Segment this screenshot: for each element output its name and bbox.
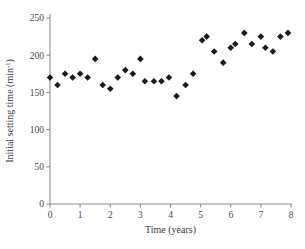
y-axis-title-suffix: ) — [4, 59, 16, 62]
data-point — [270, 48, 277, 55]
x-tick-label: 8 — [289, 210, 294, 220]
x-tick-label: 5 — [198, 210, 203, 220]
data-point — [211, 48, 218, 55]
data-point — [241, 30, 248, 37]
data-point — [107, 85, 114, 92]
y-tick-label: 200 — [30, 51, 45, 61]
scatter-chart: 050100150200250 012345678 Time (years) I… — [0, 0, 305, 249]
data-point — [182, 82, 189, 89]
data-point — [69, 74, 76, 81]
data-point — [151, 78, 158, 85]
y-axis-title-main: Initial setting time (min — [4, 68, 16, 163]
data-point — [203, 33, 210, 40]
y-axis-title: Initial setting time (min-1) — [4, 59, 17, 162]
data-point — [220, 59, 227, 66]
y-axis-ticks: 050100150200250 — [30, 13, 50, 209]
data-point — [47, 74, 54, 81]
data-point — [142, 78, 149, 85]
data-point — [62, 71, 69, 78]
data-point — [130, 71, 137, 78]
data-point — [277, 33, 284, 40]
data-point — [166, 74, 173, 81]
data-point — [122, 67, 129, 74]
data-point — [137, 56, 144, 63]
x-tick-label: 1 — [78, 210, 83, 220]
data-point — [258, 33, 265, 40]
data-point — [262, 44, 269, 51]
data-point — [199, 37, 206, 44]
data-point — [92, 56, 99, 63]
x-axis-title: Time (years) — [145, 224, 196, 236]
data-point — [84, 74, 91, 81]
x-axis-ticks: 012345678 — [48, 204, 294, 220]
x-tick-label: 6 — [228, 210, 233, 220]
data-points-group — [47, 30, 292, 100]
y-tick-label: 50 — [35, 162, 45, 172]
y-axis-group: 050100150200250 — [30, 13, 50, 209]
y-tick-label: 250 — [30, 13, 45, 23]
data-point — [158, 78, 165, 85]
y-tick-label: 0 — [39, 199, 44, 209]
data-point — [173, 93, 180, 100]
y-tick-label: 100 — [30, 125, 45, 135]
data-point — [227, 44, 234, 51]
x-tick-label: 7 — [259, 210, 264, 220]
data-point — [54, 82, 61, 89]
x-tick-label: 0 — [48, 210, 53, 220]
x-tick-label: 3 — [138, 210, 143, 220]
data-point — [114, 74, 121, 81]
chart-canvas: 050100150200250 012345678 Time (years) I… — [0, 0, 305, 249]
data-point — [99, 82, 106, 89]
y-tick-label: 150 — [30, 88, 45, 98]
data-point — [232, 41, 239, 48]
data-point — [249, 41, 256, 48]
data-point — [285, 30, 292, 37]
data-point — [77, 71, 84, 78]
x-tick-label: 4 — [168, 210, 173, 220]
x-tick-label: 2 — [108, 210, 113, 220]
data-point — [190, 71, 197, 78]
x-axis-group: 012345678 — [48, 204, 294, 220]
